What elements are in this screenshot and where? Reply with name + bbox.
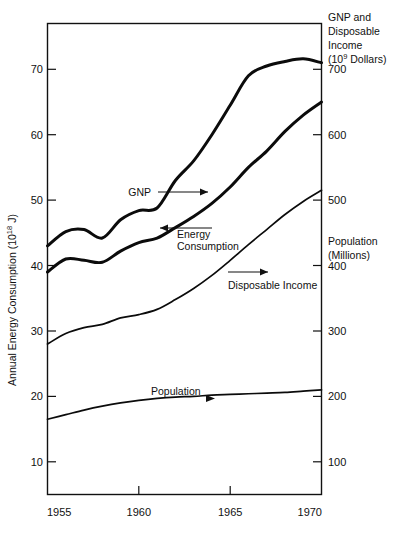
annotation-energy-consumption-label-line1: Energy (177, 228, 211, 240)
x-tick-label-1970: 1970 (298, 506, 322, 518)
annotation-gnp-label: GNP (128, 186, 151, 198)
right-title-line-4: (109 Dollars) (328, 52, 386, 65)
right-tick-label-300: 300 (328, 325, 346, 337)
right-title-line-3: Income (328, 39, 363, 51)
multi-series-line-chart: 70 60 50 40 30 20 10 Annual Energy Consu… (0, 0, 407, 552)
x-tick-label-1965: 1965 (218, 506, 242, 518)
left-axis-title-main: Annual Energy Consumption (10 (6, 234, 18, 386)
right-title-line-1: GNP and (328, 11, 371, 23)
left-tick-label-40: 40 (31, 260, 43, 272)
x-tick-label-1955: 1955 (47, 506, 71, 518)
right-title-line-2: Disposable (328, 25, 380, 37)
left-tick-label-50: 50 (31, 194, 43, 206)
svg-text:Annual Energy Consumption (101: Annual Energy Consumption (1018 J) (5, 214, 18, 386)
right-tick-label-600: 600 (328, 129, 346, 141)
right-tick-label-100: 100 (328, 456, 346, 468)
left-axis-title: Annual Energy Consumption (1018 J) (5, 214, 18, 386)
right-title-line-4-post: Dollars) (347, 53, 386, 65)
left-tick-label-20: 20 (31, 390, 43, 402)
right-tick-label-400: 400 (328, 260, 346, 272)
right-title-line-4-pre: (10 (328, 53, 343, 65)
left-tick-label-70: 70 (31, 63, 43, 75)
chart-background (0, 0, 407, 552)
x-tick-label-1960: 1960 (127, 506, 151, 518)
population-axis-title-line-1: Population (328, 235, 378, 247)
left-tick-label-60: 60 (31, 129, 43, 141)
right-tick-label-700: 700 (328, 63, 346, 75)
left-tick-label-30: 30 (31, 325, 43, 337)
left-axis-title-exponent: 18 (5, 226, 14, 234)
left-tick-label-10: 10 (31, 456, 43, 468)
left-axis-title-tail: J) (6, 214, 18, 226)
figure-container: 70 60 50 40 30 20 10 Annual Energy Consu… (0, 0, 407, 552)
annotation-disposable-income-label: Disposable Income (228, 279, 317, 291)
annotation-energy-consumption-label-line2: Consumption (177, 240, 239, 252)
annotation-population-label: Population (151, 385, 201, 397)
right-tick-label-500: 500 (328, 194, 346, 206)
population-axis-title-line-2: (Millions) (328, 249, 370, 261)
right-tick-label-200: 200 (328, 390, 346, 402)
